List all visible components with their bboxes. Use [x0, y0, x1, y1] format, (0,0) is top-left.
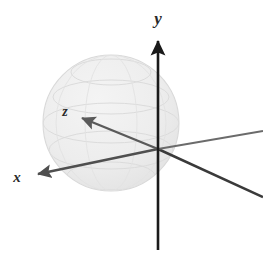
- coordinate-axes-diagram: y x z: [0, 0, 263, 267]
- z-axis-label: z: [61, 104, 68, 119]
- x-axis-negative-segment: [158, 149, 263, 197]
- y-axis-label: y: [152, 9, 162, 28]
- x-axis-label: x: [12, 169, 21, 185]
- figure-canvas: y x z: [0, 0, 263, 267]
